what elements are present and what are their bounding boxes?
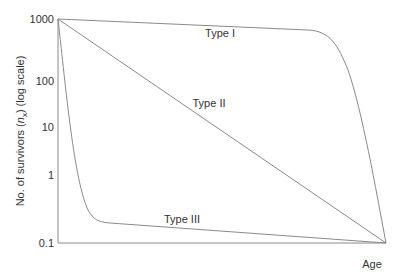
y-axis-ticks: 1000 100 10 1 0.1 xyxy=(30,13,54,249)
survivorship-chart: 1000 100 10 1 0.1 No. of survivors (nx) … xyxy=(0,0,401,276)
x-axis-label: Age xyxy=(362,258,382,270)
type-iii-label: Type III xyxy=(164,213,200,225)
y-tick-1000: 1000 xyxy=(30,13,54,25)
type-i-label: Type I xyxy=(205,27,235,39)
y-tick-100: 100 xyxy=(36,75,54,87)
y-tick-1: 1 xyxy=(48,169,54,181)
y-tick-10: 10 xyxy=(42,121,54,133)
type-ii-curve xyxy=(58,19,386,243)
y-tick-0-1: 0.1 xyxy=(39,237,54,249)
type-ii-label: Type II xyxy=(192,97,225,109)
y-axis-label: No. of survivors (nx) (log scale) xyxy=(14,56,29,207)
